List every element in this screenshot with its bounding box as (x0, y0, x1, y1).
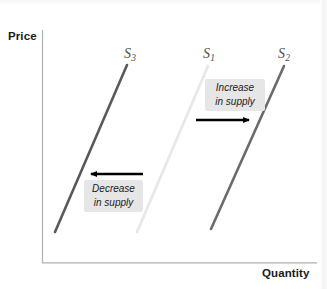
supply-shift-figure: Price Quantity S3 S1 S2 Increase in supp… (0, 0, 327, 289)
decrease-callout-line2: in supply (89, 196, 138, 210)
decrease-in-supply-callout: Decrease in supply (84, 180, 143, 212)
curve-label-s2-base: S (278, 46, 285, 61)
curve-label-s1-base: S (203, 46, 210, 61)
curve-label-s3-base: S (124, 46, 131, 61)
y-axis-label: Price (8, 30, 37, 42)
curve-label-s3: S3 (124, 47, 136, 63)
increase-callout-line1: Increase (210, 81, 260, 95)
curve-label-s2-subscript: 2 (285, 53, 290, 63)
curve-label-s1-subscript: 1 (210, 53, 215, 63)
plot-canvas (0, 0, 327, 289)
decrease-callout-line1: Decrease (89, 182, 138, 196)
supply-curve-s1 (137, 66, 208, 232)
curve-label-s2: S2 (278, 47, 290, 63)
increase-in-supply-callout: Increase in supply (205, 79, 265, 111)
curve-label-s1: S1 (203, 47, 215, 63)
x-axis-label: Quantity (262, 267, 309, 279)
increase-callout-line2: in supply (210, 95, 260, 109)
curve-label-s3-subscript: 3 (131, 53, 136, 63)
